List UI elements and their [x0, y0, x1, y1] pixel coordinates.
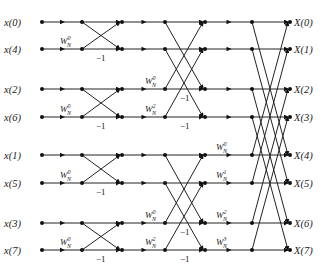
arrow-icon — [227, 248, 232, 252]
node-dot — [203, 248, 207, 252]
node-dot — [120, 181, 124, 185]
arrow-icon — [227, 87, 232, 91]
arrow-icon — [227, 221, 232, 225]
input-label: x(4) — [3, 44, 21, 56]
node-dot — [40, 87, 44, 91]
node-dot — [250, 181, 254, 185]
twiddle-factor: W1N — [216, 169, 228, 182]
input-label: x(1) — [3, 150, 21, 162]
node-dot — [250, 47, 254, 51]
node-dot — [163, 20, 167, 24]
twiddle-factor: W2N — [145, 236, 157, 249]
negation-label: −1 — [180, 93, 190, 103]
node-dot — [80, 248, 84, 252]
node-dot — [163, 221, 167, 225]
twiddle-factor: W0N — [60, 236, 72, 249]
flow-nodes — [40, 20, 292, 252]
node-dot — [203, 153, 207, 157]
twiddle-factor: W0N — [145, 75, 157, 88]
arrow-icon — [142, 115, 147, 119]
node-dot — [120, 115, 124, 119]
input-label: x(6) — [3, 112, 21, 124]
output-label: X(3) — [293, 112, 313, 124]
node-dot — [288, 153, 292, 157]
negation-label: −1 — [180, 254, 190, 264]
node-dot — [250, 248, 254, 252]
twiddle-factor: W0N — [145, 209, 157, 222]
output-label: X(5) — [293, 178, 313, 190]
output-label: X(6) — [293, 218, 313, 230]
arrow-icon — [142, 248, 147, 252]
node-dot — [120, 20, 124, 24]
negation-label: −1 — [96, 187, 106, 197]
input-labels: x(0)x(4)x(2)x(6)x(1)x(5)x(3)x(7) — [3, 17, 21, 257]
output-label: X(2) — [293, 84, 313, 96]
output-label: X(4) — [293, 150, 313, 162]
node-dot — [120, 221, 124, 225]
node-dot — [163, 115, 167, 119]
arrow-icon — [60, 153, 65, 157]
arrow-icon — [227, 181, 232, 185]
signal-flow-edges — [42, 22, 288, 250]
input-label: x(7) — [3, 245, 21, 257]
node-dot — [80, 181, 84, 185]
arrow-icon — [60, 20, 65, 24]
arrow-icon — [60, 87, 65, 91]
node-dot — [120, 87, 124, 91]
input-label: x(5) — [3, 178, 21, 190]
node-dot — [80, 221, 84, 225]
node-dot — [203, 115, 207, 119]
arrow-icon — [227, 153, 232, 157]
negation-label: −1 — [180, 227, 190, 237]
node-dot — [288, 248, 292, 252]
node-dot — [250, 221, 254, 225]
node-dot — [288, 221, 292, 225]
node-dot — [40, 181, 44, 185]
fft-butterfly-diagram: x(0)x(4)x(2)x(6)x(1)x(5)x(3)x(7) X(0)X(1… — [0, 0, 330, 273]
arrow-icon — [60, 221, 65, 225]
node-dot — [203, 221, 207, 225]
twiddle-factor: W2N — [145, 103, 157, 116]
node-dot — [80, 20, 84, 24]
node-dot — [288, 87, 292, 91]
node-dot — [288, 20, 292, 24]
output-label: X(0) — [293, 17, 313, 29]
node-dot — [80, 47, 84, 51]
arrow-icon — [227, 20, 232, 24]
node-dot — [120, 248, 124, 252]
negation-label: −1 — [96, 254, 106, 264]
output-labels: X(0)X(1)X(2)X(3)X(4)X(5)X(6)X(7) — [293, 17, 313, 257]
node-dot — [40, 47, 44, 51]
arrow-icon — [142, 153, 147, 157]
negation-label: −1 — [96, 53, 106, 63]
arrow-icon — [142, 47, 147, 51]
node-dot — [288, 115, 292, 119]
node-dot — [80, 115, 84, 119]
twiddle-factor: W0N — [216, 141, 228, 154]
node-dot — [120, 47, 124, 51]
node-dot — [80, 153, 84, 157]
node-dot — [250, 20, 254, 24]
input-label: x(0) — [3, 17, 21, 29]
node-dot — [203, 47, 207, 51]
node-dot — [163, 181, 167, 185]
arrow-icon — [142, 181, 147, 185]
node-dot — [163, 248, 167, 252]
negation-label: −1 — [180, 121, 190, 131]
node-dot — [40, 115, 44, 119]
output-label: X(1) — [293, 44, 313, 56]
node-dot — [40, 248, 44, 252]
node-dot — [40, 221, 44, 225]
node-dot — [203, 181, 207, 185]
node-dot — [203, 20, 207, 24]
node-dot — [203, 87, 207, 91]
arrow-icon — [142, 87, 147, 91]
arrow-icon — [142, 221, 147, 225]
negation-label: −1 — [96, 121, 106, 131]
twiddle-factor: W2N — [216, 209, 228, 222]
arrow-icon — [60, 47, 65, 51]
node-dot — [163, 47, 167, 51]
node-dot — [163, 153, 167, 157]
node-dot — [40, 153, 44, 157]
twiddle-factor: W0N — [60, 35, 72, 48]
